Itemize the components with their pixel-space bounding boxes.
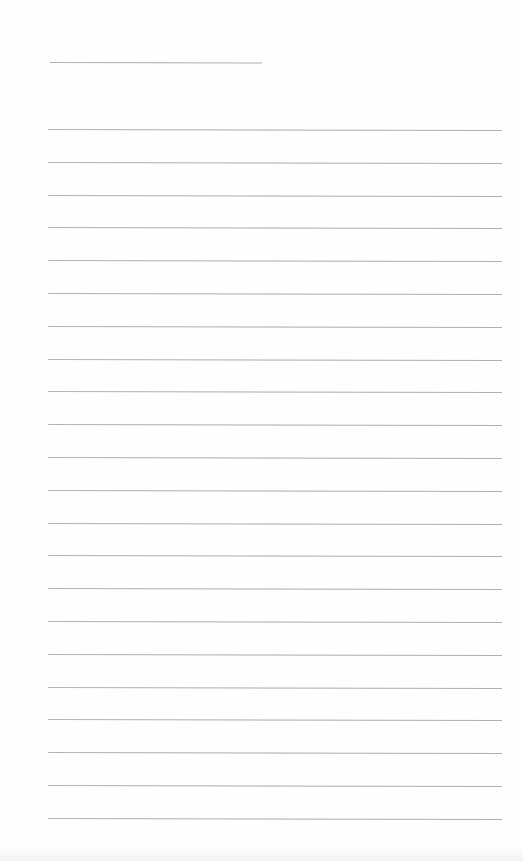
ruled-line <box>48 457 502 459</box>
ruled-line <box>48 260 502 262</box>
ruled-line <box>48 326 502 328</box>
ruled-line <box>48 523 502 525</box>
ruled-line <box>48 162 502 164</box>
ruled-line <box>48 227 502 229</box>
lined-paper-page <box>0 0 523 861</box>
ruled-line <box>48 555 502 557</box>
ruled-line <box>48 621 502 623</box>
ruled-line <box>48 719 502 721</box>
scan-edge <box>0 847 523 861</box>
ruled-line <box>48 293 502 295</box>
ruled-line <box>48 195 502 197</box>
ruled-line <box>48 129 502 131</box>
ruled-line <box>48 391 502 393</box>
ruled-line <box>48 687 502 689</box>
ruled-line <box>48 359 502 361</box>
title-line <box>50 62 262 63</box>
ruled-line <box>48 654 502 656</box>
ruled-line <box>48 588 502 590</box>
ruled-line <box>48 490 502 492</box>
ruled-line <box>48 785 502 787</box>
ruled-line <box>48 752 502 754</box>
ruled-line <box>48 424 502 426</box>
ruled-line <box>48 818 502 820</box>
